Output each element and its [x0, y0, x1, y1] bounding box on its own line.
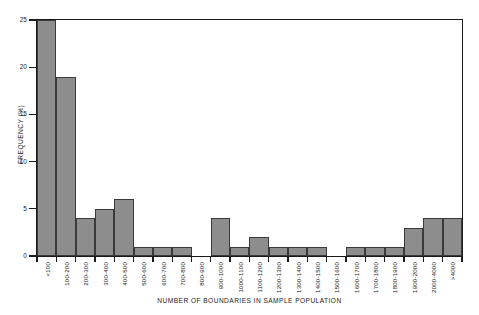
x-axis-tick-label-text: 1900-2000 — [410, 262, 417, 293]
bar-slot — [327, 20, 346, 256]
x-axis-tick-label-text: 1300-1400 — [294, 262, 301, 293]
bar — [37, 20, 56, 256]
bar-series — [37, 20, 462, 256]
bar-slot — [307, 20, 326, 256]
y-axis-tick-label: 25 — [20, 16, 27, 23]
bar-slot — [443, 20, 462, 256]
histogram-figure: 0510152025 FREQUENCY (%) <100100-200200-… — [0, 0, 479, 315]
x-axis-tick-label-text: 400-500 — [120, 262, 127, 286]
bar-slot — [134, 20, 153, 256]
x-axis-tick-label: 1300-1400 — [288, 262, 307, 296]
bar — [249, 237, 268, 256]
bar-slot — [114, 20, 133, 256]
x-axis-tick-label: 200-300 — [76, 262, 95, 296]
bar — [423, 218, 442, 256]
x-axis-tick-label: 1400-1500 — [307, 262, 326, 296]
bar — [443, 218, 462, 256]
x-axis-tick-label-text: 600-700 — [159, 262, 166, 286]
x-axis-tick-label-text: 100-200 — [62, 262, 69, 286]
x-axis-tick-label-text: 2000-4000 — [429, 262, 436, 293]
x-axis-tick-label-text: 1600-1700 — [352, 262, 359, 293]
x-axis-tick-label: 1500-1600 — [327, 262, 346, 296]
bar — [365, 247, 384, 256]
x-axis-tick-label-text: 1700-1800 — [371, 262, 378, 293]
x-axis-tick-label-text: 1000-1100 — [236, 262, 243, 293]
y-axis-title: FREQUENCY (%) — [17, 87, 24, 183]
x-axis-tick-label-text: <100 — [43, 262, 50, 277]
bar — [269, 247, 288, 256]
bar-slot — [385, 20, 404, 256]
x-axis-tick-label-text: 500-600 — [140, 262, 147, 286]
x-axis-tick-label: 1700-1800 — [365, 262, 384, 296]
x-axis-tick-label-text: 1100-1200 — [256, 262, 263, 293]
bar — [288, 247, 307, 256]
x-axis-tick-label: 300-400 — [95, 262, 114, 296]
x-axis-tick-label-text: 800-900 — [198, 262, 205, 286]
bar-slot — [192, 20, 211, 256]
bar-slot — [269, 20, 288, 256]
bar — [404, 228, 423, 256]
x-axis-tick-label: <100 — [37, 262, 56, 296]
bar — [307, 247, 326, 256]
bar — [172, 247, 191, 256]
y-axis-tick-label: 20 — [20, 63, 27, 70]
bar-slot — [346, 20, 365, 256]
bar — [76, 218, 95, 256]
x-axis-tick-label-text: 1400-1500 — [314, 262, 321, 293]
x-axis-tick-label: 1800-1900 — [385, 262, 404, 296]
y-axis-tick-label: 5 — [23, 205, 27, 212]
x-axis-tick-label-text: 900-1000 — [217, 262, 224, 289]
x-axis-tick-label: 700-800 — [172, 262, 191, 296]
x-axis-tick-label: 100-200 — [56, 262, 75, 296]
x-axis-tick-label: 1600-1700 — [346, 262, 365, 296]
bar — [346, 247, 365, 256]
bar-slot — [37, 20, 56, 256]
bar — [385, 247, 404, 256]
x-axis-tick-labels: <100100-200200-300300-400400-500500-6006… — [37, 262, 462, 296]
bar-slot — [288, 20, 307, 256]
bar-slot — [76, 20, 95, 256]
x-axis-tick-label: 1000-1100 — [230, 262, 249, 296]
y-axis-tick-label: 0 — [23, 252, 27, 259]
x-axis-title: NUMBER OF BOUNDARIES IN SAMPLE POPULATIO… — [36, 297, 463, 304]
bar-slot — [404, 20, 423, 256]
bar-slot — [249, 20, 268, 256]
bar — [211, 218, 230, 256]
x-axis-tick-label-text: >4000 — [449, 262, 456, 280]
x-axis-tick-label-text: 300-400 — [101, 262, 108, 286]
bar-slot — [423, 20, 442, 256]
x-axis-tick-label: 1200-1300 — [269, 262, 288, 296]
x-axis-tick-label: 1900-2000 — [404, 262, 423, 296]
bar — [134, 247, 153, 256]
bar — [56, 77, 75, 256]
x-axis-tick-label: 1100-1200 — [249, 262, 268, 296]
x-axis-tick-label-text: 1800-1900 — [391, 262, 398, 293]
bar-slot — [365, 20, 384, 256]
bar-slot — [211, 20, 230, 256]
bar-slot — [230, 20, 249, 256]
x-axis-tick-label: >4000 — [443, 262, 462, 296]
x-axis-tick-label-text: 700-800 — [178, 262, 185, 286]
x-axis-tick-label: 800-900 — [192, 262, 211, 296]
x-axis-tick-label-text: 1500-1600 — [333, 262, 340, 293]
bar-slot — [95, 20, 114, 256]
bar-slot — [56, 20, 75, 256]
bar — [95, 209, 114, 256]
bar-slot — [172, 20, 191, 256]
x-axis-tick-label-text: 200-300 — [82, 262, 89, 286]
bar — [114, 199, 133, 256]
bar-slot — [153, 20, 172, 256]
x-axis-tick-label: 500-600 — [134, 262, 153, 296]
x-axis-tick-label: 900-1000 — [211, 262, 230, 296]
x-axis-tick-label: 400-500 — [114, 262, 133, 296]
bar — [230, 247, 249, 256]
bar — [153, 247, 172, 256]
x-axis-tick-label: 2000-4000 — [423, 262, 442, 296]
x-axis-tick-label-text: 1200-1300 — [275, 262, 282, 293]
x-axis-tick-label: 600-700 — [153, 262, 172, 296]
